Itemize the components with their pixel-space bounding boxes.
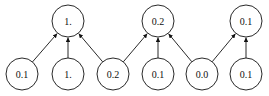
node-b5: 0.1 [230,58,262,90]
node-label: 0.1 [152,69,165,80]
edge-arrow [79,34,103,62]
node-label: 1. [64,69,72,80]
edge-arrow [32,33,57,61]
tree-diagram: 1.0.20.10.11.0.20.10.00.1 [0,0,269,96]
node-b2: 0.2 [97,58,129,90]
edge-arrow [212,34,235,62]
node-label: 0.0 [196,69,209,80]
node-b0: 0.1 [6,58,38,90]
node-t1: 0.2 [142,5,174,37]
node-label: 1. [64,16,72,27]
node-label: 0.1 [240,16,253,27]
node-t2: 0.1 [230,5,262,37]
edges [32,33,246,61]
node-b4: 0.0 [186,58,218,90]
edge-arrow [123,34,147,62]
node-label: 0.1 [16,69,29,80]
edge-arrow [169,34,192,62]
node-t0: 1. [52,5,84,37]
node-b3: 0.1 [142,58,174,90]
node-b1: 1. [52,58,84,90]
node-label: 0.1 [240,69,253,80]
node-label: 0.2 [107,69,120,80]
node-label: 0.2 [152,16,165,27]
